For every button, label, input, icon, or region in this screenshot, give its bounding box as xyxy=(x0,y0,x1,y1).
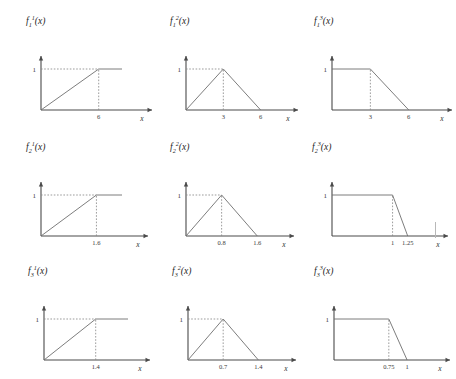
x-tick-label: 1.6 xyxy=(92,239,101,246)
x-tick-label: 6 xyxy=(407,113,411,120)
y-axis-arrow-icon xyxy=(39,56,43,61)
x-axis-arrow-icon xyxy=(290,234,295,238)
y-axis-arrow-icon xyxy=(39,182,43,187)
plot-panel: f31(x)11.4x xyxy=(0,254,152,379)
x-tick-label: 3 xyxy=(369,113,372,120)
plot-svg: 10.81.6x xyxy=(152,128,300,254)
x-axis-arrow-icon xyxy=(448,108,453,112)
plot-panel: f22(x)10.81.6x xyxy=(152,128,300,254)
plot-panel: f32(x)10.71.4x xyxy=(152,254,300,379)
x-tick-label: 1.4 xyxy=(92,363,101,370)
x-tick-label: 1 xyxy=(391,239,394,246)
x-axis-label: x xyxy=(283,364,288,373)
x-axis-arrow-icon xyxy=(446,358,451,362)
x-axis-label: x xyxy=(435,240,440,249)
plot-panel: f11(x)16x xyxy=(0,0,152,128)
y-axis-arrow-icon xyxy=(42,306,46,311)
y-tick-label: 1 xyxy=(180,316,184,324)
y-tick-label: 1 xyxy=(33,192,37,200)
plot-svg: 10.751x xyxy=(300,254,456,379)
x-tick-label: 0.7 xyxy=(219,363,228,370)
curve-path xyxy=(44,319,128,360)
plot-panel: f13(x)136x xyxy=(300,0,456,128)
stray-artifact-mark xyxy=(435,222,436,238)
x-axis-label: x xyxy=(139,114,144,123)
x-tick-label: 1.4 xyxy=(254,363,263,370)
x-axis-label: x xyxy=(437,364,442,373)
plot-svg: 111.25x xyxy=(300,128,456,254)
y-tick-label: 1 xyxy=(324,66,328,74)
y-tick-label: 1 xyxy=(326,316,330,324)
y-axis-arrow-icon xyxy=(186,306,190,311)
plot-svg: 11.6x xyxy=(0,128,152,254)
x-tick-label: 0.8 xyxy=(218,239,226,246)
y-tick-label: 1 xyxy=(33,66,37,74)
x-axis-arrow-icon xyxy=(144,234,149,238)
x-axis-arrow-icon xyxy=(146,358,151,362)
plot-grid: f11(x)16xf12(x)136xf13(x)136xf21(x)11.6x… xyxy=(0,0,456,379)
y-axis-arrow-icon xyxy=(184,182,188,187)
x-axis-label: x xyxy=(137,364,142,373)
x-axis-arrow-icon xyxy=(292,358,297,362)
y-axis-arrow-icon xyxy=(332,306,336,311)
y-tick-label: 1 xyxy=(178,192,182,200)
x-tick-label: 1.25 xyxy=(402,239,413,246)
plot-svg: 10.71.4x xyxy=(152,254,300,379)
y-axis-arrow-icon xyxy=(330,182,334,187)
plot-panel: f23(x)111.25x xyxy=(300,128,456,254)
curve-path xyxy=(334,319,407,360)
y-axis-arrow-icon xyxy=(184,56,188,61)
y-tick-label: 1 xyxy=(324,192,328,200)
x-tick-label: 3 xyxy=(222,113,225,120)
x-axis-label: x xyxy=(281,240,286,249)
y-axis-arrow-icon xyxy=(330,56,334,61)
x-tick-label: 6 xyxy=(97,113,101,120)
x-axis-label: x xyxy=(439,114,444,123)
x-tick-label: 1.6 xyxy=(253,239,262,246)
plot-svg: 11.4x xyxy=(0,254,152,379)
curve-path xyxy=(41,195,122,236)
plot-panel: f12(x)136x xyxy=(152,0,300,128)
x-axis-label: x xyxy=(285,114,290,123)
x-axis-arrow-icon xyxy=(444,234,449,238)
plot-panel: f21(x)11.6x xyxy=(0,128,152,254)
x-axis-label: x xyxy=(135,240,140,249)
x-tick-label: 0.75 xyxy=(383,363,394,370)
plot-panel: f33(x)10.751x xyxy=(300,254,456,379)
x-tick-label: 6 xyxy=(259,113,263,120)
x-tick-label: 1 xyxy=(405,363,408,370)
plot-svg: 16x xyxy=(0,0,152,128)
y-tick-label: 1 xyxy=(178,66,182,74)
plot-svg: 136x xyxy=(300,0,456,128)
curve-path xyxy=(332,195,408,236)
plot-svg: 136x xyxy=(152,0,300,128)
y-tick-label: 1 xyxy=(36,316,40,324)
curve-path xyxy=(41,69,122,110)
x-axis-arrow-icon xyxy=(294,108,299,112)
